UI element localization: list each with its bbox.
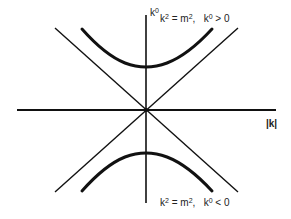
lower-hyperbola-branch — [82, 153, 212, 191]
lower-branch-label: k2 = m2, k0 < 0 — [160, 198, 230, 208]
horizontal-axis-label: |k| — [266, 119, 277, 129]
spacetime-diagram — [0, 0, 291, 219]
origin-point — [144, 108, 148, 112]
upper-branch-label: k2 = m2, k0 > 0 — [160, 14, 230, 24]
vertical-axis-label: k0 — [150, 8, 159, 18]
upper-hyperbola-branch — [82, 29, 212, 67]
